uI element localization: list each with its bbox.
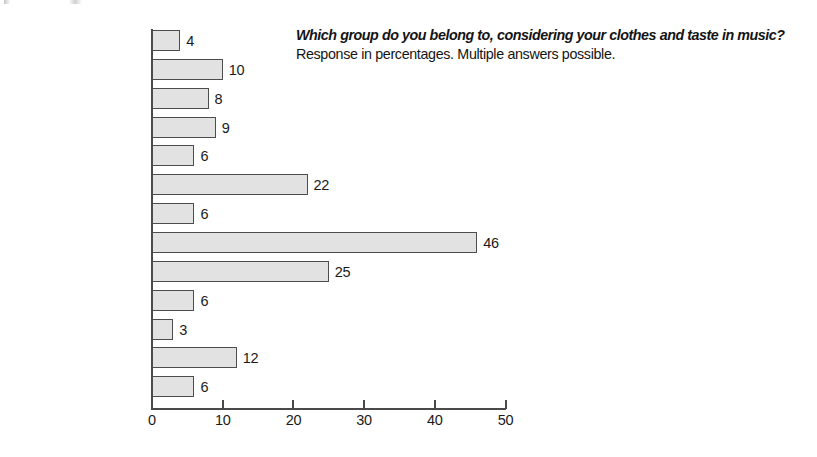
bar [152,174,308,195]
bar-value-label: 22 [314,175,330,195]
bar [152,232,477,253]
bar-value-label: 6 [200,146,208,166]
bar-value-label: 9 [222,118,230,138]
x-tick-40 [434,400,436,409]
bar-value-label: 8 [215,89,223,109]
bar-value-label: 25 [335,262,351,282]
x-tick-10 [222,400,224,409]
bar [152,203,194,224]
x-tick-label-0: 0 [148,412,156,428]
bar [152,347,237,368]
bar-value-label: 6 [200,291,208,311]
bar [152,319,173,340]
bar-value-label: 4 [186,31,194,51]
bar-chart: Which group do you belong to, considerin… [0,0,817,457]
x-tick-label-50: 50 [498,412,514,428]
bar [152,30,180,51]
bar [152,88,209,109]
chart-subtitle: Response in percentages. Multiple answer… [296,45,806,64]
x-tick-0 [151,400,153,409]
bar-value-label: 6 [200,204,208,224]
bar-value-label: 6 [200,377,208,397]
bar-value-label: 3 [179,320,187,340]
bar [152,290,194,311]
x-axis-line [151,408,506,410]
x-tick-label-10: 10 [215,412,231,428]
bar [152,261,329,282]
x-tick-20 [292,400,294,409]
x-tick-label-40: 40 [427,412,443,428]
bar [152,117,216,138]
bar-value-label: 10 [229,60,245,80]
x-tick-50 [505,400,507,409]
chart-title: Which group do you belong to, considerin… [296,26,806,44]
x-tick-30 [363,400,365,409]
bar-value-label: 46 [483,233,499,253]
x-tick-label-30: 30 [356,412,372,428]
bar [152,376,194,397]
scan-artifact [4,0,112,4]
chart-title-block: Which group do you belong to, considerin… [296,26,806,64]
bar [152,59,223,80]
bar [152,145,194,166]
bar-value-label: 12 [243,348,259,368]
x-tick-label-20: 20 [286,412,302,428]
